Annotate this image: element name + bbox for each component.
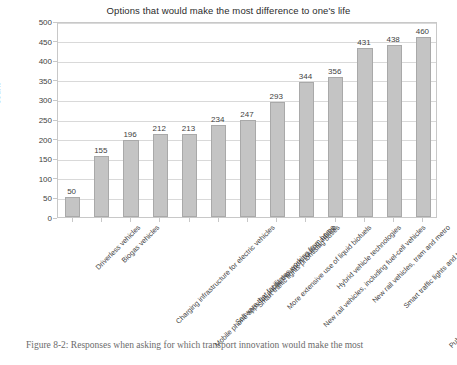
x-tick-mark [159,218,160,222]
bar [211,125,226,217]
bar [270,102,285,217]
y-tick-mark [53,120,57,121]
y-tick-label: 300 [2,96,52,105]
gridline [58,42,436,43]
x-tick-mark [101,218,102,222]
bar-value-label: 356 [328,67,341,76]
bar-value-label: 155 [94,146,107,155]
x-tick-mark [247,218,248,222]
x-tick-mark [335,218,336,222]
y-tick-mark [53,100,57,101]
y-tick-label: 250 [2,116,52,125]
x-tick-mark [305,218,306,222]
figure-caption: Figure 8-2: Responses when asking for wh… [26,340,446,350]
y-tick-mark [53,198,57,199]
bar-value-label: 247 [240,110,253,119]
bar-value-label: 293 [270,92,283,101]
y-tick-label: 450 [2,37,52,46]
x-tick-mark [276,218,277,222]
x-tick-mark [72,218,73,222]
x-tick-label: New rail vehicles, including fuel-cell v… [322,223,428,329]
x-tick-label: Charging infrastructure for electric veh… [174,223,277,326]
bar [123,140,138,217]
bar-value-label: 234 [211,115,224,124]
x-tick-mark [393,218,394,222]
y-tick-label: 350 [2,76,52,85]
bar-value-label: 431 [357,38,370,47]
bar [416,37,431,217]
y-tick-label: 200 [2,135,52,144]
y-tick-label: 100 [2,174,52,183]
y-tick-label: 50 [2,194,52,203]
y-tick-mark [53,61,57,62]
y-tick-mark [53,178,57,179]
bar [65,197,80,217]
x-tick-mark [422,218,423,222]
y-tick-mark [53,218,57,219]
bar-value-label: 460 [416,27,429,36]
gridline [58,81,436,82]
y-tick-label: 150 [2,155,52,164]
bar [94,156,109,217]
bar [328,77,343,217]
bar [240,120,255,217]
bar-value-label: 438 [386,35,399,44]
bar [387,45,402,217]
x-tick-mark [189,218,190,222]
y-tick-mark [53,80,57,81]
gridline [58,23,436,24]
bar [299,82,314,217]
x-tick-mark [130,218,131,222]
bar-value-label: 212 [153,124,166,133]
chart-title: Options that would make the most differe… [0,5,457,16]
chart-page: Options that would make the most differe… [0,0,457,365]
bar-value-label: 213 [182,124,195,133]
bar [182,134,197,217]
y-tick-mark [53,139,57,140]
bar [153,134,168,217]
y-tick-mark [53,159,57,160]
x-tick-label: Public transport/city bikes ticket syste… [447,223,457,350]
y-tick-mark [53,22,57,23]
x-tick-mark [364,218,365,222]
bar [357,48,372,217]
gridline [58,62,436,63]
y-tick-label: 0 [2,214,52,223]
x-tick-mark [218,218,219,222]
y-tick-label: 500 [2,18,52,27]
y-tick-label: 400 [2,57,52,66]
plot-area [57,22,437,218]
bar-value-label: 196 [123,130,136,139]
gridline [58,101,436,102]
y-tick-mark [53,41,57,42]
bar-value-label: 344 [299,72,312,81]
bar-value-label: 50 [67,187,76,196]
